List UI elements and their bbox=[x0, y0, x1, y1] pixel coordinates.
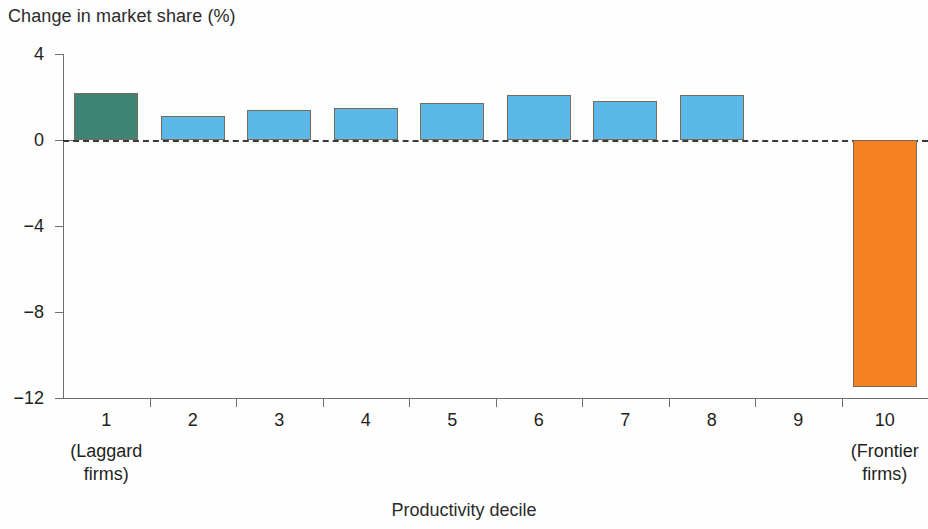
x-axis-tick bbox=[669, 398, 670, 407]
y-axis-label: −8 bbox=[0, 302, 44, 323]
plot-area: 40−4−8−12 1(Laggardfirms)2345678910(Fron… bbox=[63, 54, 928, 398]
y-axis-label: 4 bbox=[0, 44, 44, 65]
bar-decile-5 bbox=[420, 103, 484, 140]
bars-group bbox=[63, 54, 928, 398]
x-axis-sublabel-line: (Frontier bbox=[851, 440, 919, 463]
bar-decile-1 bbox=[74, 93, 138, 140]
x-axis-tick bbox=[755, 398, 756, 407]
x-axis-sublabel-line: (Laggard bbox=[70, 440, 142, 463]
x-axis-sublabel-1: (Laggardfirms) bbox=[70, 440, 142, 486]
x-axis-label-8: 8 bbox=[707, 410, 717, 431]
x-axis-sublabel-10: (Frontierfirms) bbox=[851, 440, 919, 486]
bar-decile-4 bbox=[334, 108, 398, 140]
y-axis-label: 0 bbox=[0, 130, 44, 151]
y-axis-label: −12 bbox=[0, 388, 44, 409]
x-axis-label-7: 7 bbox=[620, 410, 630, 431]
x-axis-sublabel-line: firms) bbox=[851, 463, 919, 486]
x-axis-tick bbox=[150, 398, 151, 407]
chart-figure: Change in market share (%) 40−4−8−12 1(L… bbox=[0, 0, 928, 529]
y-axis-tick bbox=[55, 398, 64, 399]
bar-decile-8 bbox=[680, 95, 744, 140]
bar-decile-7 bbox=[593, 101, 657, 140]
y-axis-title: Change in market share (%) bbox=[8, 6, 236, 27]
bar-decile-6 bbox=[507, 95, 571, 140]
x-axis-sublabel-line: firms) bbox=[70, 463, 142, 486]
y-axis-label: −4 bbox=[0, 216, 44, 237]
x-axis-tick bbox=[582, 398, 583, 407]
x-axis-label-2: 2 bbox=[188, 410, 198, 431]
x-axis-tick bbox=[236, 398, 237, 407]
bar-decile-2 bbox=[161, 116, 225, 140]
x-axis-label-10: 10 bbox=[875, 410, 895, 431]
x-axis-title: Productivity decile bbox=[0, 500, 928, 521]
x-axis-label-9: 9 bbox=[793, 410, 803, 431]
x-axis-label-5: 5 bbox=[447, 410, 457, 431]
x-axis-tick bbox=[496, 398, 497, 407]
x-axis-tick bbox=[842, 398, 843, 407]
bar-decile-10 bbox=[853, 140, 917, 387]
bar-decile-3 bbox=[247, 110, 311, 140]
x-axis-label-1: 1 bbox=[101, 410, 111, 431]
x-axis-label-3: 3 bbox=[274, 410, 284, 431]
x-axis-label-6: 6 bbox=[534, 410, 544, 431]
x-axis-tick bbox=[323, 398, 324, 407]
x-axis-line bbox=[59, 398, 928, 399]
x-axis-tick bbox=[409, 398, 410, 407]
x-axis-label-4: 4 bbox=[361, 410, 371, 431]
